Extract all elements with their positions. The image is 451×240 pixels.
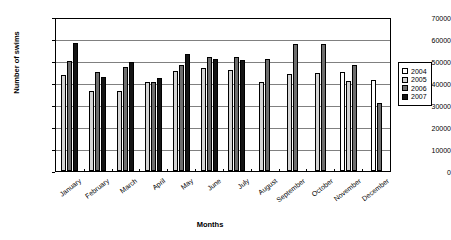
x-tick-label: August xyxy=(227,177,279,219)
bar xyxy=(101,77,106,171)
category-tick xyxy=(334,169,335,172)
bar xyxy=(346,81,351,171)
bar xyxy=(145,82,150,171)
y-tick-label: 0 xyxy=(401,169,451,176)
bar xyxy=(95,72,100,171)
legend-item: 2004 xyxy=(402,68,427,75)
bar xyxy=(315,73,320,171)
x-tick-label: October xyxy=(283,177,335,219)
bar-group xyxy=(195,19,223,171)
bar xyxy=(201,68,206,171)
y-tick-mark xyxy=(52,128,55,129)
y-tick-label: 70000 xyxy=(401,15,451,22)
bar-group xyxy=(334,19,362,171)
category-tick xyxy=(362,169,363,172)
legend-swatch xyxy=(402,68,408,74)
y-tick-mark xyxy=(52,18,55,19)
bar xyxy=(287,74,292,171)
bar xyxy=(377,103,382,171)
y-tick-mark xyxy=(52,106,55,107)
bar-group xyxy=(84,19,112,171)
bar xyxy=(293,44,298,171)
legend-swatch xyxy=(402,94,408,100)
x-tick-label: June xyxy=(171,177,223,219)
bar-group xyxy=(56,19,84,171)
bar-group xyxy=(223,19,251,171)
bar xyxy=(213,59,218,171)
bar xyxy=(89,91,94,171)
category-tick xyxy=(251,169,252,172)
legend-swatch xyxy=(402,85,408,91)
x-tick-label: December xyxy=(339,177,391,219)
bar xyxy=(129,62,134,171)
y-tick-label: 20000 xyxy=(401,125,451,132)
x-tick-label: September xyxy=(255,177,307,219)
x-tick-label: November xyxy=(311,177,363,219)
legend-label: 2007 xyxy=(411,93,427,100)
x-tick-label: April xyxy=(115,177,167,219)
bar-groups xyxy=(56,19,390,171)
y-tick-label: 10000 xyxy=(401,147,451,154)
bar xyxy=(173,71,178,171)
bar xyxy=(352,65,357,171)
bar xyxy=(73,43,78,171)
x-tick-label: January xyxy=(31,177,83,219)
bar xyxy=(371,80,376,171)
bar xyxy=(240,60,245,171)
bar xyxy=(67,61,72,171)
bar-group xyxy=(112,19,140,171)
bar-group xyxy=(139,19,167,171)
category-tick xyxy=(306,169,307,172)
bar-group xyxy=(362,19,390,171)
legend-swatch xyxy=(402,77,408,83)
category-tick xyxy=(195,169,196,172)
legend-label: 2006 xyxy=(411,85,427,92)
bar-chart: Number of swims 700006000050000400003000… xyxy=(0,0,451,240)
bar xyxy=(228,70,233,171)
x-tick-label: July xyxy=(199,177,251,219)
bar xyxy=(234,57,239,171)
category-tick xyxy=(139,169,140,172)
bar-group xyxy=(306,19,334,171)
bar xyxy=(321,44,326,171)
bar-group xyxy=(279,19,307,171)
y-tick-mark xyxy=(52,172,55,173)
category-tick xyxy=(167,169,168,172)
bar xyxy=(117,91,122,171)
x-tick-label: March xyxy=(87,177,139,219)
category-tick xyxy=(223,169,224,172)
y-tick-mark xyxy=(52,40,55,41)
bar xyxy=(259,82,264,171)
legend-label: 2005 xyxy=(411,76,427,83)
legend-item: 2006 xyxy=(402,85,427,92)
y-axis-title: Number of swims xyxy=(12,13,21,113)
category-tick xyxy=(279,169,280,172)
bar xyxy=(185,54,190,171)
bar-group xyxy=(251,19,279,171)
legend-item: 2007 xyxy=(402,93,427,100)
bar-group xyxy=(167,19,195,171)
bar xyxy=(179,65,184,171)
bar xyxy=(123,67,128,171)
legend-label: 2004 xyxy=(411,68,427,75)
category-tick xyxy=(112,169,113,172)
y-tick-mark xyxy=(52,84,55,85)
x-tick-label: February xyxy=(59,177,111,219)
legend-item: 2005 xyxy=(402,76,427,83)
y-tick-mark xyxy=(52,150,55,151)
y-tick-mark xyxy=(52,62,55,63)
bar xyxy=(61,75,66,171)
x-tick-label: May xyxy=(143,177,195,219)
category-tick xyxy=(84,169,85,172)
x-axis-ticks: JanuaryFebruaryMarchAprilMayJuneJulyAugu… xyxy=(56,174,390,220)
bar xyxy=(207,57,212,171)
bar xyxy=(157,78,162,171)
bar xyxy=(265,59,270,171)
bar xyxy=(151,82,156,171)
bar xyxy=(340,72,345,171)
y-tick-label: 60000 xyxy=(401,37,451,44)
x-axis-title: Months xyxy=(0,220,420,229)
legend: 2004200520062007 xyxy=(398,62,432,106)
